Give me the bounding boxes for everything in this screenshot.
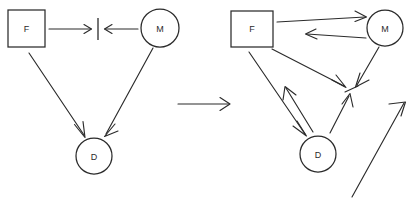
edge-lower-diagonal-to-hub-right	[352, 102, 406, 197]
diagram-canvas: F M D	[0, 0, 411, 204]
edge-f-to-d-right	[249, 52, 307, 136]
edge-d-to-hub-right	[330, 94, 353, 134]
hub-point-right	[345, 86, 358, 92]
node-d-right[interactable]: D	[300, 136, 336, 172]
left-panel: F M D	[8, 9, 179, 174]
transition-arrow	[178, 98, 230, 111]
node-m-left[interactable]: M	[141, 9, 179, 47]
edge-f-to-bar-left	[49, 25, 92, 34]
node-d-right-label: D	[315, 150, 322, 160]
edge-m-to-f-right	[306, 29, 367, 39]
edge-f-to-d-left	[29, 53, 85, 138]
node-m-right-label: M	[381, 24, 389, 34]
right-panel: F M D	[231, 10, 406, 197]
edge-f-to-m-right	[277, 11, 367, 22]
node-f-left[interactable]: F	[8, 10, 45, 47]
node-f-right[interactable]: F	[231, 11, 273, 47]
node-f-left-label: F	[24, 24, 30, 34]
diagram-svg: F M D	[0, 0, 411, 204]
node-m-left-label: M	[156, 24, 164, 34]
edge-m-to-d-left	[105, 48, 154, 137]
node-d-left-label: D	[91, 152, 98, 162]
edge-m-to-bar-left	[105, 25, 139, 34]
node-d-left[interactable]: D	[76, 138, 112, 174]
node-m-right[interactable]: M	[367, 10, 403, 46]
edge-f-to-hub-right	[272, 49, 346, 88]
node-f-right-label: F	[249, 24, 255, 34]
edge-m-to-hub-right	[356, 47, 380, 87]
